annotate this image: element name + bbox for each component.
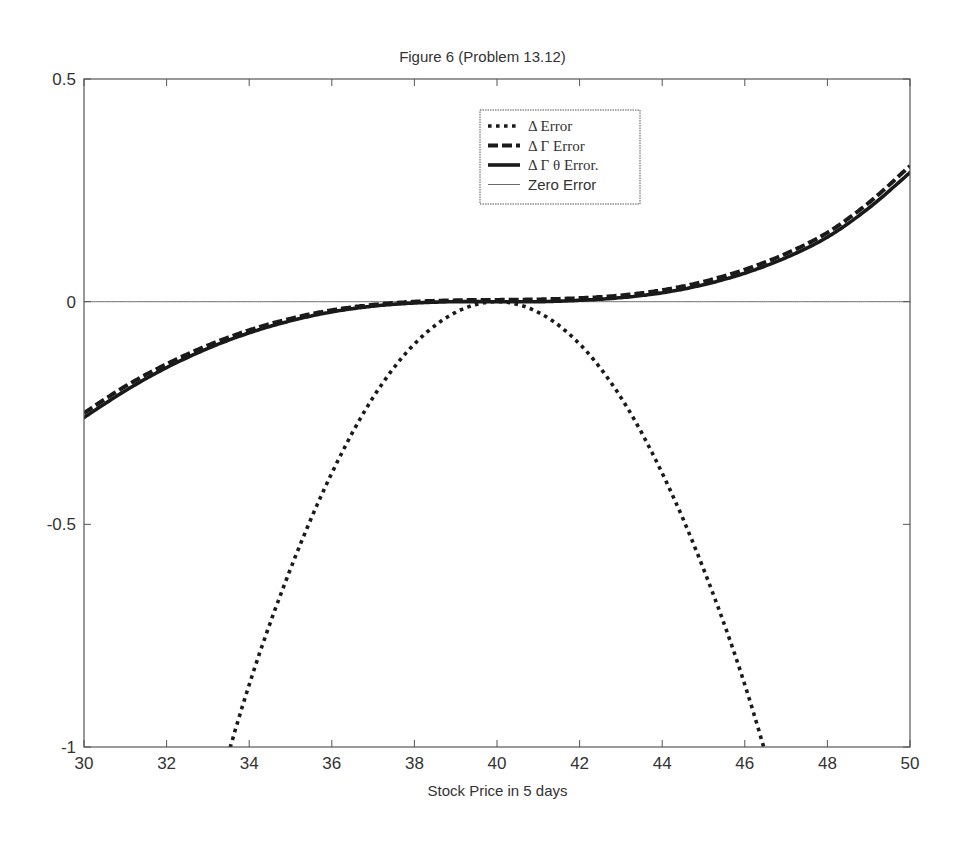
x-tick-label: 40 xyxy=(488,754,507,773)
y-tick-label: -1 xyxy=(61,738,76,757)
y-tick-label: 0.5 xyxy=(52,70,76,89)
legend: Δ ErrorΔ Γ ErrorΔ Γ θ Error.Zero Error xyxy=(480,110,640,204)
legend-label: Δ Γ θ Error. xyxy=(528,157,599,173)
series-error xyxy=(84,173,910,418)
x-tick-label: 44 xyxy=(653,754,672,773)
y-tick-label: 0 xyxy=(67,293,76,312)
x-tick-label: 42 xyxy=(570,754,589,773)
x-tick-label: 38 xyxy=(405,754,424,773)
x-tick-label: 50 xyxy=(901,754,920,773)
y-tick-label: -0.5 xyxy=(47,515,76,534)
x-tick-label: 34 xyxy=(240,754,259,773)
legend-label: Δ Error xyxy=(528,118,572,134)
legend-label: Zero Error xyxy=(528,176,596,193)
x-tick-label: 48 xyxy=(818,754,837,773)
x-tick-label: 30 xyxy=(75,754,94,773)
x-tick-label: 46 xyxy=(735,754,754,773)
x-tick-label: 36 xyxy=(322,754,341,773)
legend-label: Δ Γ Error xyxy=(528,138,585,154)
x-tick-label: 32 xyxy=(157,754,176,773)
line-chart: 3032343638404244464850-1-0.500.5 Δ Error… xyxy=(0,0,965,846)
